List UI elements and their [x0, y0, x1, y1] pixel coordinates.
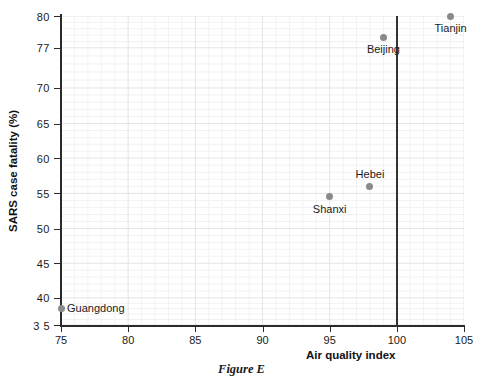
y-tick-label: 70	[37, 82, 50, 94]
y-tick-label: 45	[37, 258, 50, 270]
x-tick-mark	[330, 325, 331, 332]
y-tick-mark: 40	[54, 298, 61, 299]
x-tick-mark	[464, 325, 465, 332]
y-tick-mark: 70	[54, 88, 61, 89]
y-tick-label: 40	[37, 292, 50, 304]
y-tick-mark: 45	[54, 263, 61, 264]
x-tick-mark	[61, 325, 62, 332]
data-point-tianjin[interactable]	[447, 13, 454, 20]
y-tick-label: 55	[37, 188, 50, 200]
y-tick-mark: 50	[54, 229, 61, 230]
point-label-hebei: Hebei	[356, 168, 385, 180]
y-axis-title: SARS case fatality (%)	[4, 16, 22, 325]
x-tick-label: 85	[189, 334, 201, 346]
point-label-beijing: Beijing	[367, 43, 400, 55]
x-tick-mark	[195, 325, 196, 332]
point-label-tianjin: Tianjin	[435, 22, 467, 34]
figure-caption: Figure E	[0, 362, 483, 377]
y-tick-label: 60	[37, 153, 50, 165]
x-tick-label: 105	[455, 334, 473, 346]
x-axis-title: Air quality index	[306, 349, 395, 361]
point-label-guangdong: Guangdong	[67, 302, 125, 314]
x-tick-label: 80	[122, 334, 134, 346]
y-axis-title-text: SARS case fatality (%)	[7, 109, 19, 231]
y-tick-label: 80	[37, 11, 50, 23]
y-tick-label: 77	[37, 42, 50, 54]
y-axis-line	[60, 14, 62, 327]
point-label-shanxi: Shanxi	[313, 203, 347, 215]
grid-lines	[61, 16, 464, 325]
data-point-guangdong[interactable]	[58, 305, 65, 312]
y-tick-mark: 65	[54, 124, 61, 125]
y-tick-label: 50	[37, 223, 50, 235]
x-tick-mark	[263, 325, 264, 332]
y-tick-label: 65	[37, 118, 50, 130]
y-tick-mark: 55	[54, 193, 61, 194]
x-tick-mark	[128, 325, 129, 332]
x-tick-label: 100	[388, 334, 406, 346]
y-tick-mark: 77	[54, 48, 61, 49]
reference-line-x100	[396, 16, 398, 327]
x-tick-label: 90	[256, 334, 268, 346]
x-tick-label: 75	[55, 334, 67, 346]
y-tick-mark: 80	[54, 16, 61, 17]
x-tick-mark	[397, 325, 398, 332]
plot-area	[61, 16, 464, 325]
y-tick-mark: 60	[54, 158, 61, 159]
y-tick-label: 3 5	[33, 320, 50, 332]
y-tick-mark: 3 5	[54, 325, 61, 326]
data-point-beijing[interactable]	[380, 34, 387, 41]
x-tick-label: 95	[324, 334, 336, 346]
figure-container: 3 5404550556065707780 7580859095100105 G…	[0, 0, 483, 392]
